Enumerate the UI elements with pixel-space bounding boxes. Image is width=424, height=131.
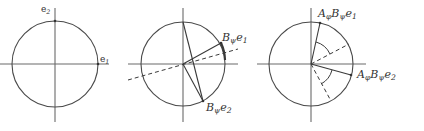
abe2-point [350, 74, 353, 77]
arc-highlight [221, 43, 225, 60]
panel-basis [0, 8, 109, 122]
dashed-be2 [311, 64, 331, 101]
label-a-phi-b-psi-e1: AφBψe1 [318, 8, 357, 21]
label-base: B [222, 31, 230, 44]
label-tail-sub: 1 [243, 36, 248, 45]
vector-be2 [183, 64, 203, 101]
abe1-point [319, 22, 322, 25]
label-e1: e1 [100, 55, 109, 65]
be2-point [202, 100, 205, 103]
label-a: A [318, 7, 326, 20]
chord-top-to-be2 [183, 22, 203, 101]
label-a-phi-b-psi-e2: AφBψe2 [357, 69, 396, 82]
label-tail-sub: 2 [391, 73, 396, 82]
label-sub: 1 [105, 58, 109, 65]
label-tail-sub: 2 [227, 106, 232, 115]
label-sub: 2 [46, 8, 50, 15]
angle-arc-upper [316, 42, 330, 54]
label-a: A [357, 68, 365, 81]
label-e2: e2 [41, 5, 50, 15]
panel-ab-transform [257, 8, 366, 122]
e1-point [97, 63, 100, 66]
angle-arc-lower [321, 70, 332, 84]
label-tail-sub: 1 [352, 12, 357, 21]
e2-point [54, 20, 57, 23]
figure: e2 e1 Bψe1 Bψe2 AφBψe1 AφBψe2 [0, 0, 424, 131]
label-base: B [206, 101, 214, 114]
vector-abe1 [311, 23, 320, 64]
label-b-psi-e1: Bψe1 [222, 32, 248, 45]
label-b-psi-e2: Bψe2 [206, 102, 232, 115]
